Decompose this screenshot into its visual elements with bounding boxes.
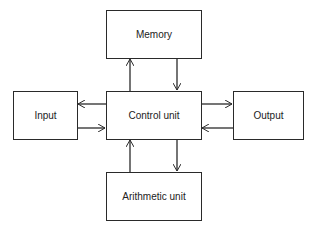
memory-label: Memory xyxy=(136,29,172,40)
arithmetic-unit-box: Arithmetic unit xyxy=(106,172,202,221)
memory-box: Memory xyxy=(106,10,202,59)
output-label: Output xyxy=(253,110,283,121)
input-box: Input xyxy=(13,91,78,140)
output-box: Output xyxy=(233,91,304,140)
control-unit-box: Control unit xyxy=(106,91,202,140)
arithmetic-unit-label: Arithmetic unit xyxy=(122,191,185,202)
input-label: Input xyxy=(34,110,56,121)
control-unit-label: Control unit xyxy=(128,110,179,121)
